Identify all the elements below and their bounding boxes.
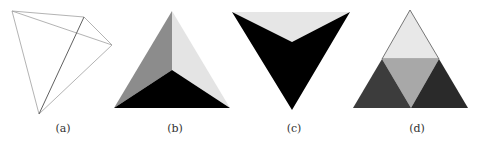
panel-d-label: (d) [409, 122, 425, 135]
panel-b-shaded [114, 11, 230, 108]
panel-c-label: (c) [287, 122, 302, 135]
panel-a-label: (a) [55, 122, 70, 135]
panel-b-label: (b) [167, 122, 183, 135]
panel-a-wireframe [12, 11, 112, 114]
panel-d-subdivided [353, 10, 468, 108]
panel-c-shaded [232, 12, 350, 110]
